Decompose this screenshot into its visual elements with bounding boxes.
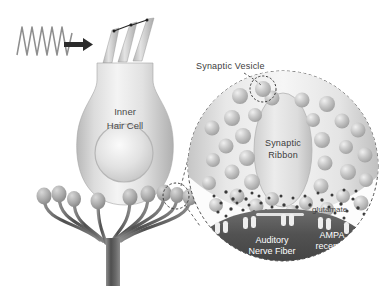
ampa-receptor-label-line1: AMPA	[320, 230, 345, 240]
inner-hair-cell-label-line2: Hair Cell	[107, 120, 143, 131]
nucleus	[95, 124, 153, 182]
highlighted-vesicle	[255, 81, 271, 97]
hair-cell-synapse-figure: Inner Hair Cell	[0, 0, 390, 300]
inner-hair-cell-body	[77, 63, 174, 205]
inner-hair-cell-label-line1: Inner	[114, 106, 136, 117]
auditory-nerve-fiber-label-line1: Auditory	[255, 235, 289, 245]
diagram-canvas: Inner Hair Cell	[0, 0, 390, 300]
sound-wave-icon	[17, 27, 72, 55]
auditory-nerve-trunk	[106, 238, 120, 286]
active-zone-bar	[256, 213, 304, 216]
auditory-nerve-fiber-label-line2: Nerve Fiber	[248, 246, 295, 256]
ampa-receptor-label-line2: receptor	[315, 241, 348, 251]
synaptic-ribbon-label-line2: Ribbon	[268, 150, 298, 160]
synaptic-vesicle-label: Synaptic Vesicle	[196, 61, 265, 71]
glutamate-label: glutamate	[312, 205, 348, 214]
stereocilia-group	[103, 18, 154, 63]
synaptic-ribbon-label-line1: Synaptic	[265, 138, 301, 148]
